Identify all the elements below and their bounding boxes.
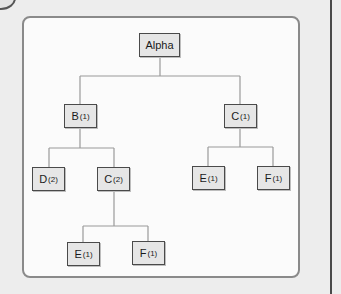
node-label: E [74,248,81,260]
node-label: C [231,110,239,122]
node-label: C [104,173,112,185]
node-subscript: (1) [80,112,90,121]
node-b1: B(1) [64,104,97,128]
node-label: Alpha [145,39,173,51]
node-f1-right: F(1) [257,166,290,190]
node-f1-left: F(1) [132,241,165,265]
node-subscript: (1) [147,249,157,258]
node-subscript: (2) [113,175,123,184]
node-label: D [39,173,47,185]
node-label: B [71,110,78,122]
node-alpha: Alpha [139,33,180,57]
node-subscript: (1) [208,174,218,183]
node-subscript: (1) [272,174,282,183]
node-label: F [140,247,147,259]
node-e1-right: E(1) [192,166,225,190]
node-label: E [199,172,206,184]
node-subscript: (2) [48,175,58,184]
node-e1-left: E(1) [67,242,100,266]
node-d2: D(2) [32,167,65,191]
node-label: F [265,172,272,184]
node-c2: C(2) [97,167,130,191]
node-subscript: (1) [240,112,250,121]
node-subscript: (1) [83,250,93,259]
node-c1: C(1) [224,104,257,128]
